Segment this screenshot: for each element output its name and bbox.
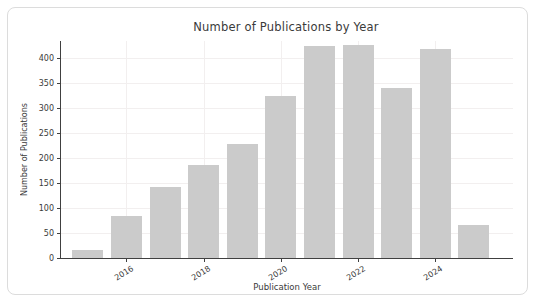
y-tick-label-300: 300: [39, 104, 54, 113]
y-axis-label: Number of Publications: [20, 41, 29, 258]
bar-2022: [343, 45, 374, 258]
y-tick-label-350: 350: [39, 79, 54, 88]
x-tick-2018: [204, 258, 205, 262]
plot-area: Number of Publications Publication Year …: [60, 41, 513, 259]
x-tick-label-2022: 2022: [345, 264, 367, 282]
y-tick-label-150: 150: [39, 179, 54, 188]
x-tick-label-2016: 2016: [113, 264, 135, 282]
bar-2024: [420, 49, 451, 258]
bar-2015: [72, 250, 103, 259]
bar-2020: [265, 96, 296, 258]
x-tick-label-2018: 2018: [190, 264, 212, 282]
bar-2025: [458, 225, 489, 259]
bar-2016: [111, 216, 142, 259]
y-tick-label-50: 50: [44, 229, 54, 238]
x-axis-label: Publication Year: [61, 282, 513, 292]
bar-2018: [188, 165, 219, 258]
x-tick-2016: [126, 258, 127, 262]
x-tick-label-2024: 2024: [422, 264, 444, 282]
chart-card: Number of Publications by Year Number of…: [7, 7, 528, 295]
x-tick-2020: [281, 258, 282, 262]
bar-2023: [381, 88, 412, 258]
screenshot-stage: Number of Publications by Year Number of…: [0, 0, 533, 301]
y-tick-label-250: 250: [39, 129, 54, 138]
x-tick-2024: [435, 258, 436, 262]
bar-2019: [227, 144, 258, 258]
bar-2017: [150, 187, 181, 258]
y-tick-label-200: 200: [39, 154, 54, 163]
y-tick-label-0: 0: [49, 254, 54, 263]
bar-2021: [304, 46, 335, 258]
y-tick-0: [57, 258, 61, 259]
x-tick-2022: [358, 258, 359, 262]
x-tick-label-2020: 2020: [268, 264, 290, 282]
y-tick-label-100: 100: [39, 204, 54, 213]
y-tick-label-400: 400: [39, 54, 54, 63]
chart-title: Number of Publications by Year: [60, 20, 512, 34]
